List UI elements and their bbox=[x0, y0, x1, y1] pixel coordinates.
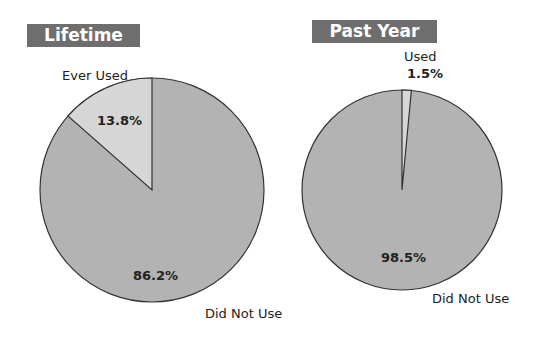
past-year-not-pct: 98.5% bbox=[381, 250, 426, 265]
lifetime-title: Lifetime bbox=[27, 24, 140, 47]
lifetime-used-pct: 13.8% bbox=[97, 113, 142, 128]
past-year-not-label: Did Not Use bbox=[432, 291, 509, 306]
past-year-title: Past Year bbox=[312, 20, 437, 43]
lifetime-not-label: Did Not Use bbox=[205, 306, 282, 321]
lifetime-not-pct: 86.2% bbox=[133, 268, 178, 283]
lifetime-used-label: Ever Used bbox=[62, 68, 128, 83]
past-year-used-label: Used bbox=[404, 49, 437, 64]
pie-charts bbox=[0, 0, 533, 341]
past-year-used-pct: 1.5% bbox=[407, 66, 443, 81]
